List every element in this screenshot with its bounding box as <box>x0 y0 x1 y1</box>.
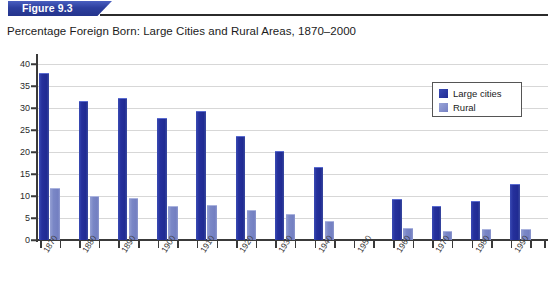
x-axis-tick-mark-minor <box>530 241 532 248</box>
figure-banner-rule <box>100 14 548 16</box>
bar-large-cities-1890 <box>118 98 128 240</box>
y-axis-tick-label: 40 <box>4 59 30 69</box>
bar-large-cities-1880 <box>79 101 89 240</box>
x-axis-tick-mark-minor <box>295 241 297 248</box>
bar-large-cities-1870 <box>39 73 49 240</box>
figure-number-label: Figure 9.3 <box>22 1 73 16</box>
y-axis-tick-label: 15 <box>4 169 30 179</box>
bar-large-cities-1990 <box>510 184 520 240</box>
bar-large-cities-1930 <box>275 151 285 240</box>
gridline <box>38 174 548 175</box>
x-axis-tick-mark-minor <box>217 241 219 248</box>
bar-large-cities-1900 <box>157 118 167 240</box>
bar-large-cities-1960 <box>392 199 402 240</box>
legend-item-large-cities: Large cities <box>439 87 502 100</box>
y-axis-tick-label: 30 <box>4 103 30 113</box>
y-axis-tick-label: 0 <box>4 235 30 245</box>
legend-item-rural: Rural <box>439 101 476 114</box>
legend-swatch-icon-rural <box>439 103 448 112</box>
x-axis-tick-mark-minor <box>138 241 140 248</box>
y-axis-tick-label: 25 <box>4 125 30 135</box>
x-axis-tick-mark-minor <box>413 241 415 248</box>
figure-banner: Figure 9.3 <box>0 0 554 22</box>
chart-title: Percentage Foreign Born: Large Cities an… <box>7 25 356 37</box>
y-axis-tick-label: 5 <box>4 213 30 223</box>
legend-label-large-cities: Large cities <box>453 89 502 99</box>
x-axis-tick-mark-minor <box>452 241 454 248</box>
y-axis-tick-label: 20 <box>4 147 30 157</box>
gridline <box>38 196 548 197</box>
x-axis-tick-mark-minor <box>256 241 258 248</box>
chart-legend: Large cities Rural <box>432 82 522 117</box>
x-axis-tick-mark-minor <box>99 241 101 248</box>
gridline <box>38 152 548 153</box>
x-axis-tick-mark-minor <box>177 241 179 248</box>
x-axis-tick-mark-minor <box>491 241 493 248</box>
bar-large-cities-1920 <box>236 136 246 240</box>
x-axis-tick-mark-minor <box>373 241 375 248</box>
figure-container: Figure 9.3 Percentage Foreign Born: Larg… <box>0 0 554 285</box>
bar-large-cities-1910 <box>196 111 206 240</box>
bar-large-cities-1940 <box>314 167 324 240</box>
y-axis-tick-label: 10 <box>4 191 30 201</box>
bar-large-cities-1970 <box>432 206 442 240</box>
x-axis-tick-mark <box>544 241 546 248</box>
bar-large-cities-1980 <box>471 201 481 240</box>
legend-swatch-icon-large-cities <box>439 89 448 98</box>
legend-label-rural: Rural <box>453 103 476 113</box>
gridline <box>38 64 548 65</box>
y-axis-tick-label: 35 <box>4 81 30 91</box>
bar-rural-1870 <box>50 188 60 240</box>
gridline <box>38 130 548 131</box>
x-axis-tick-mark-minor <box>60 241 62 248</box>
x-axis-tick-mark-minor <box>334 241 336 248</box>
